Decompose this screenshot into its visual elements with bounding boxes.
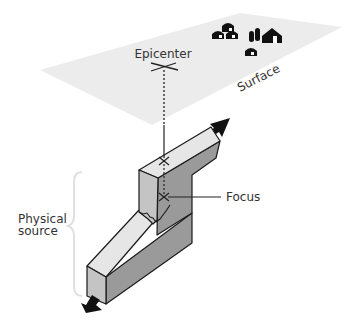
upper-block (139, 127, 220, 235)
surface-plane (40, 13, 342, 125)
physical-source-label-line2: source (18, 224, 58, 238)
epicenter-label: Epicenter (134, 47, 191, 61)
focus-label: Focus (226, 190, 260, 204)
lower-block (87, 210, 192, 304)
earthquake-diagram: Surface Epicenter (0, 0, 358, 326)
physical-source-brace (68, 172, 82, 296)
